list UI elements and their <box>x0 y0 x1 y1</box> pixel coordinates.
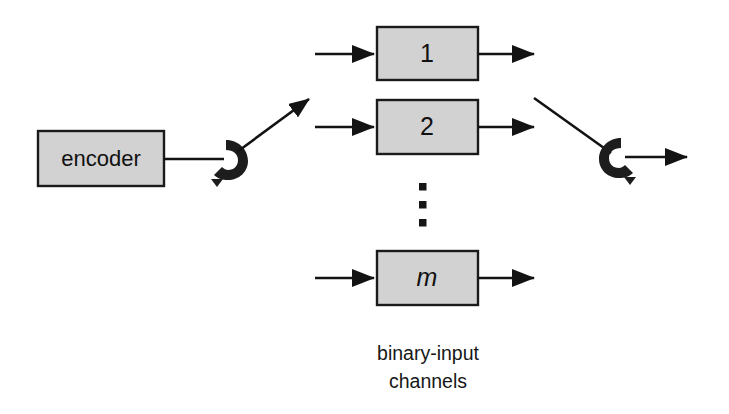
diagram-svg: encoder 1 2 <box>0 0 729 414</box>
output-rotary-switch <box>599 138 636 185</box>
ellipsis-dot-1 <box>419 183 427 191</box>
caption-line-2: channels <box>389 370 467 392</box>
encoder-block: encoder <box>38 131 164 186</box>
ellipsis-dot-2 <box>419 201 427 209</box>
encoder-label: encoder <box>61 146 141 171</box>
diagram-canvas: encoder 1 2 <box>0 0 729 414</box>
channel-1-group: 1 <box>315 27 534 80</box>
channel-ellipsis <box>419 183 427 227</box>
channel-1-label: 1 <box>420 39 434 67</box>
ellipsis-dot-3 <box>419 219 427 227</box>
channel-2-label: 2 <box>420 112 434 140</box>
channels-to-switch-diagonal <box>534 98 611 153</box>
channel-m-group: m <box>315 251 534 305</box>
caption-block: binary-input channels <box>377 342 479 392</box>
channel-m-label: m <box>417 263 438 291</box>
switch-to-channels-diagonal <box>237 99 309 152</box>
switch-arrow-tip <box>624 177 636 185</box>
switch-arrow-tip <box>211 179 223 187</box>
caption-line-1: binary-input <box>377 342 479 364</box>
channel-2-group: 2 <box>315 100 534 154</box>
